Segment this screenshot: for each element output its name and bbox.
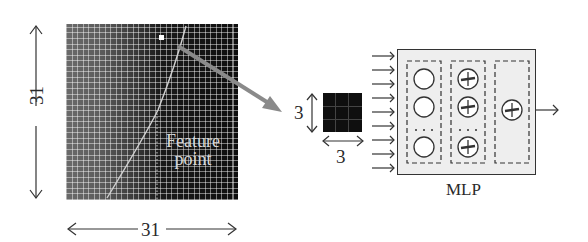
height-dimension-arrow [26, 24, 46, 200]
mlp-output-arrow-icon [536, 103, 562, 117]
feature-label-line2: point [158, 150, 228, 168]
patch-height-label: 3 [294, 103, 304, 122]
mlp-layers [397, 49, 536, 175]
patch-height-arrow [305, 92, 319, 134]
height-label: 31 [27, 86, 46, 105]
feature-point-label: Feature point [158, 132, 228, 168]
patch-width-label: 3 [336, 147, 346, 166]
mlp-input-arrows [370, 50, 400, 176]
small-3x3-patch [323, 93, 362, 132]
feature-label-line1: Feature [158, 132, 228, 150]
width-label: 31 [141, 220, 160, 239]
gray-arrow-icon [170, 40, 290, 120]
mlp-label: MLP [446, 181, 481, 198]
